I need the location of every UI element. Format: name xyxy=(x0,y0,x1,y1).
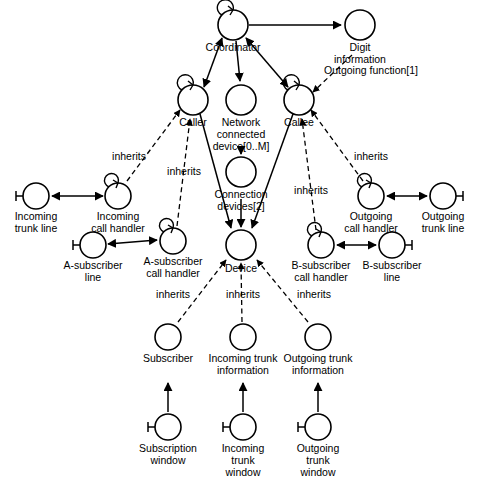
node-label-connection-devices-line1: Connection xyxy=(214,188,267,200)
node-label-caller: Caller xyxy=(179,116,207,128)
node-b-subscriber-call-handler[interactable]: B-subscriber call handler xyxy=(292,222,351,282)
node-circle xyxy=(218,10,248,40)
node-label-incoming-trunk-information-line2: information xyxy=(217,364,269,376)
node-incoming-trunk-information[interactable]: Incoming trunk information xyxy=(209,324,279,376)
port-stub-icon xyxy=(298,422,305,432)
node-label-digit-information-line1: Digit xyxy=(349,41,370,53)
node-a-subscriber-line[interactable]: A-subscriber line xyxy=(64,232,123,283)
port-stub-icon xyxy=(405,240,412,250)
node-circle xyxy=(226,85,256,115)
node-label-subscription-window-line1: Subscription xyxy=(139,442,197,454)
node-label-a-subscriber-call-handler-line1: A-subscriber xyxy=(144,255,203,267)
edge-outgoing-call-handler-inherits-callee xyxy=(311,110,363,181)
edge-label-inherits-device-mid: inherits xyxy=(226,288,260,300)
node-b-subscriber-line[interactable]: B-subscriber line xyxy=(363,232,422,283)
node-label-a-subscriber-line-line2: line xyxy=(85,271,102,283)
node-circle xyxy=(230,324,256,350)
node-label-b-subscriber-line-line1: B-subscriber xyxy=(363,259,422,271)
node-network-connected-device[interactable]: Network connected device[0..M] xyxy=(213,85,270,152)
port-stub-icon xyxy=(73,240,80,250)
node-outgoing-trunk-information[interactable]: Outgoing trunk information xyxy=(284,324,354,376)
port-stub-icon xyxy=(148,422,155,432)
node-label-b-subscriber-call-handler-line2: call handler xyxy=(294,271,348,283)
node-circle xyxy=(155,324,181,350)
edge-label-inherits-caller-right: inherits xyxy=(167,165,201,177)
node-circle xyxy=(379,232,405,258)
node-outgoing-trunk-line[interactable]: Outgoing trunk line xyxy=(422,183,465,234)
node-subscription-window[interactable]: Subscription window xyxy=(139,414,197,466)
node-label-subscription-window-line2: window xyxy=(149,454,185,466)
node-device[interactable]: Device xyxy=(225,230,257,274)
node-circle xyxy=(430,183,456,209)
node-label-incoming-trunk-window-line2: trunk xyxy=(231,454,255,466)
node-coordinator[interactable]: Coordinator xyxy=(206,0,261,53)
node-label-a-subscriber-call-handler-line2: call handler xyxy=(146,267,200,279)
node-label-incoming-trunk-window-line3: window xyxy=(224,466,260,478)
node-label-b-subscriber-line-line2: line xyxy=(384,271,401,283)
node-label-outgoing-call-handler-line1: Outgoing xyxy=(350,210,393,222)
node-label-outgoing-trunk-line-line1: Outgoing xyxy=(422,210,465,222)
node-label-a-subscriber-line-line1: A-subscriber xyxy=(64,259,123,271)
node-label-outgoing-trunk-line-line2: trunk line xyxy=(422,222,465,234)
diagram-canvas: Coordinator Digit information Outgoing f… xyxy=(0,0,477,494)
port-stub-icon xyxy=(223,422,230,432)
node-label-incoming-call-handler-line1: Incoming xyxy=(97,210,140,222)
node-circle xyxy=(155,414,181,440)
edge-label-outgoing-function: Outgoing function[1] xyxy=(324,64,418,76)
node-label-network-device-line3: device[0..M] xyxy=(213,140,270,152)
node-circle xyxy=(284,85,314,115)
node-label-connection-devices-line2: devices[2] xyxy=(217,200,264,212)
node-incoming-trunk-line[interactable]: Incoming trunk line xyxy=(15,183,58,234)
edge-label-inherits-caller-left: inherits xyxy=(112,150,146,162)
edge-label-inherits-device-left: inherits xyxy=(156,288,190,300)
node-label-outgoing-trunk-information-line1: Outgoing trunk xyxy=(284,352,354,364)
node-caller[interactable]: Caller xyxy=(177,75,208,128)
node-label-incoming-trunk-line-line1: Incoming xyxy=(15,210,58,222)
edge-label-inherits-device-right: inherits xyxy=(297,288,331,300)
node-label-network-device-line1: Network xyxy=(222,116,261,128)
node-incoming-call-handler[interactable]: Incoming call handler xyxy=(91,173,145,233)
edge-b-subscriber-call-handler-inherits-callee xyxy=(302,119,316,230)
node-circle xyxy=(226,230,256,260)
node-circle xyxy=(226,157,256,187)
edge-a-subscriber-line-a-subscriber-call-handler xyxy=(108,240,157,244)
port-stub-icon xyxy=(456,191,463,201)
node-incoming-trunk-window[interactable]: Incoming trunk window xyxy=(222,414,265,478)
node-circle xyxy=(345,10,375,40)
node-label-device: Device xyxy=(225,262,257,274)
node-callee[interactable]: Callee xyxy=(283,75,314,128)
node-label-outgoing-trunk-window-line2: trunk xyxy=(306,454,330,466)
node-label-subscriber: Subscriber xyxy=(143,352,194,364)
node-label-outgoing-trunk-window-line1: Outgoing xyxy=(297,442,340,454)
node-digit-information[interactable]: Digit information xyxy=(334,10,386,65)
node-circle xyxy=(305,324,331,350)
node-label-callee: Callee xyxy=(284,116,314,128)
edge-label-inherits-callee-left: inherits xyxy=(294,184,328,196)
node-circle xyxy=(178,85,208,115)
node-label-incoming-call-handler-line2: call handler xyxy=(91,222,145,234)
node-connection-devices[interactable]: Connection devices[2] xyxy=(214,157,267,212)
edge-label-inherits-callee-right: inherits xyxy=(354,150,388,162)
node-outgoing-trunk-window[interactable]: Outgoing trunk window xyxy=(297,414,340,478)
node-label-incoming-trunk-line-line2: trunk line xyxy=(15,222,58,234)
node-label-b-subscriber-call-handler-line1: B-subscriber xyxy=(292,259,351,271)
node-subscriber[interactable]: Subscriber xyxy=(143,324,194,364)
node-label-incoming-trunk-information-line1: Incoming trunk xyxy=(209,352,279,364)
node-circle xyxy=(305,414,331,440)
node-label-outgoing-trunk-information-line2: information xyxy=(292,364,344,376)
port-stub-icon xyxy=(16,191,23,201)
node-label-coordinator: Coordinator xyxy=(206,41,261,53)
node-circle xyxy=(230,414,256,440)
node-circle xyxy=(80,232,106,258)
node-label-outgoing-trunk-window-line3: window xyxy=(299,466,335,478)
object-communication-diagram: Coordinator Digit information Outgoing f… xyxy=(0,0,477,494)
node-label-network-device-line2: connected xyxy=(217,128,266,140)
node-circle xyxy=(23,183,49,209)
node-label-incoming-trunk-window-line1: Incoming xyxy=(222,442,265,454)
node-outgoing-call-handler[interactable]: Outgoing call handler xyxy=(344,173,398,233)
node-a-subscriber-call-handler[interactable]: A-subscriber call handler xyxy=(144,218,203,278)
